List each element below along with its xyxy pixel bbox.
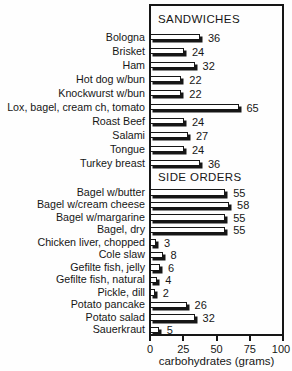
x-axis-tick-label: 100	[272, 343, 290, 355]
bar-value: 55	[233, 225, 245, 236]
bar	[150, 327, 159, 334]
bar	[150, 76, 181, 83]
bar	[150, 104, 239, 111]
bar-label: Turkey breast	[0, 158, 150, 169]
bar-label: Potato salad	[0, 312, 150, 323]
x-axis-tick	[182, 336, 184, 341]
bar-row: Bologna36	[0, 30, 292, 44]
bar-chart-figure: SANDWICHESBologna36Brisket24Ham32Hot dog…	[0, 0, 292, 371]
bar-value: 22	[189, 88, 201, 99]
bar-area: 22	[150, 72, 292, 86]
bar-value: 65	[247, 102, 259, 113]
bar-area: 2	[150, 286, 292, 299]
bar-area: 36	[150, 156, 292, 170]
bar-area: 24	[150, 114, 292, 128]
section-rows: Bagel w/butter55Bagel w/cream cheese58Ba…	[0, 186, 292, 336]
section-header: SANDWICHES	[0, 4, 292, 30]
bar-label: Gefilte fish, jelly	[0, 262, 150, 273]
bar-row: Knockwurst w/bun22	[0, 86, 292, 100]
bar-value: 27	[196, 130, 208, 141]
bar-label: Roast Beef	[0, 116, 150, 127]
bar	[150, 239, 156, 246]
bar	[150, 252, 163, 259]
bar-area: 55	[150, 186, 292, 199]
bar-row: Sauerkraut5	[0, 324, 292, 337]
bar-label: Bologna	[0, 32, 150, 43]
bar-row: Gefilte fish, jelly6	[0, 261, 292, 274]
x-axis-title: carbohydrates (grams)	[149, 355, 284, 367]
bar-row: Potato pancake26	[0, 299, 292, 312]
bar	[150, 314, 195, 321]
bar-area: 36	[150, 30, 292, 44]
bar-area: 22	[150, 86, 292, 100]
bar	[150, 189, 225, 196]
x-axis-tick-label: 0	[147, 343, 153, 355]
bar-row: Ham32	[0, 58, 292, 72]
bar-area: 26	[150, 299, 292, 312]
bar-value: 32	[203, 60, 215, 71]
bar-area: 27	[150, 128, 292, 142]
bar-area: 55	[150, 224, 292, 237]
bar-label: Gefilte fish, natural	[0, 274, 150, 285]
bar-area: 58	[150, 199, 292, 212]
bar-area: 8	[150, 249, 292, 262]
bar	[150, 132, 188, 139]
bar-value: 2	[163, 287, 169, 298]
bar	[150, 289, 155, 296]
bar-row: Cole slaw8	[0, 249, 292, 262]
bar-label: Bagel w/butter	[0, 187, 150, 198]
x-axis-tick	[216, 336, 218, 341]
bar-row: Brisket24	[0, 44, 292, 58]
x-axis-tick-label: 75	[244, 343, 256, 355]
bar-value: 5	[167, 325, 173, 336]
bar	[150, 214, 225, 221]
bar-label: Hot dog w/bun	[0, 74, 150, 85]
bar-value: 36	[208, 158, 220, 169]
bar-label: Ham	[0, 60, 150, 71]
bar-label: Bagel w/margarine	[0, 212, 150, 223]
bar-area: 24	[150, 44, 292, 58]
bar-row: Bagel w/butter55	[0, 186, 292, 199]
bar	[150, 90, 181, 97]
bar	[150, 302, 187, 309]
bar-row: Hot dog w/bun22	[0, 72, 292, 86]
bar-row: Tongue24	[0, 142, 292, 156]
bar-value: 8	[171, 250, 177, 261]
bar-row: Chicken liver, chopped3	[0, 236, 292, 249]
bar-value: 4	[165, 275, 171, 286]
bar-row: Lox, bagel, cream ch, tomato65	[0, 100, 292, 114]
bar-row: Bagel w/margarine55	[0, 211, 292, 224]
x-axis-tick-label: 25	[177, 343, 189, 355]
bar-area: 65	[150, 100, 292, 114]
bar	[150, 62, 195, 69]
bar-label: Knockwurst w/bun	[0, 88, 150, 99]
bar-label: Chicken liver, chopped	[0, 237, 150, 248]
x-axis-tick-label: 50	[210, 343, 222, 355]
x-axis-tick	[149, 336, 151, 341]
bar-value: 26	[195, 300, 207, 311]
section-rows: Bologna36Brisket24Ham32Hot dog w/bun22Kn…	[0, 30, 292, 170]
bar	[150, 277, 157, 284]
bar	[150, 264, 160, 271]
bar-area: 55	[150, 211, 292, 224]
bar-row: Bagel, dry55	[0, 224, 292, 237]
bar-row: Roast Beef24	[0, 114, 292, 128]
bar-value: 22	[189, 74, 201, 85]
bar-row: Pickle, dill2	[0, 286, 292, 299]
bar-row: Salami27	[0, 128, 292, 142]
bar	[150, 227, 225, 234]
bar-area: 32	[150, 311, 292, 324]
bar-row: Turkey breast36	[0, 156, 292, 170]
bar	[150, 202, 229, 209]
bar-area: 4	[150, 274, 292, 287]
bar-label: Bagel, dry	[0, 224, 150, 235]
bar-row: Gefilte fish, natural4	[0, 274, 292, 287]
bar-area: 24	[150, 142, 292, 156]
bar-area: 6	[150, 261, 292, 274]
bar-label: Lox, bagel, cream ch, tomato	[0, 102, 150, 113]
bar-label: Tongue	[0, 144, 150, 155]
bar	[150, 146, 184, 153]
bar-value: 32	[203, 312, 215, 323]
bar-area: 5	[150, 324, 292, 337]
x-axis-tick	[249, 336, 251, 341]
